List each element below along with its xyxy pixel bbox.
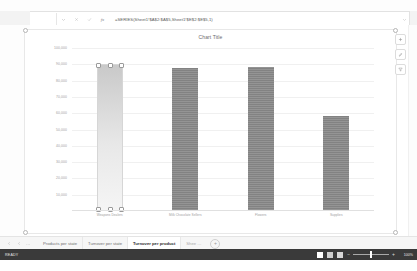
y-tick-label: 40,000 [56, 144, 67, 148]
zoom-knob[interactable] [370, 251, 372, 258]
fx-icon[interactable]: fx [96, 13, 109, 26]
zoom-slider[interactable]: − + [347, 252, 395, 257]
y-tick-label: 80,000 [56, 79, 67, 83]
bar-flowers[interactable] [248, 67, 274, 211]
zoom-in-button[interactable]: + [392, 252, 395, 257]
x-tick-label: Milk Chocolate Sellers [148, 213, 224, 217]
name-box-dropdown-icon[interactable] [57, 13, 70, 26]
status-right-group: − + 100% [317, 252, 417, 258]
chart-frame-handle[interactable] [23, 28, 28, 33]
zoom-out-button[interactable]: − [347, 252, 350, 257]
excel-window: fx =SERIES(Sheet1!$A$2:$A$5,Sheet1!$E$2:… [0, 0, 417, 271]
add-sheet-button[interactable]: + [210, 239, 220, 249]
page-layout-view-button[interactable] [327, 252, 333, 258]
bar-slot [72, 48, 148, 211]
worksheet-canvas[interactable]: Chart Title [0, 25, 417, 236]
zoom-percent-label[interactable]: 100% [399, 253, 413, 257]
y-tick-label: 20,000 [56, 176, 67, 180]
name-box[interactable] [30, 13, 57, 25]
page-break-preview-button[interactable] [337, 252, 343, 258]
bar-milk-chocolate-sellers[interactable] [172, 68, 198, 211]
sheet-nav-buttons [0, 240, 32, 248]
normal-view-button[interactable] [317, 252, 323, 258]
y-tick-label: 50,000 [56, 128, 67, 132]
bar-slot [148, 48, 224, 211]
y-tick-label: 60,000 [56, 111, 67, 115]
selection-handle[interactable] [108, 63, 113, 68]
chart-filters-button[interactable] [395, 64, 406, 75]
plot-area[interactable] [72, 48, 374, 211]
chart-object[interactable]: Chart Title [24, 29, 397, 234]
expand-formula-bar-icon[interactable] [399, 13, 409, 26]
x-tick-label: Weapons Dealers [72, 213, 148, 217]
y-tick-label: 30,000 [56, 160, 67, 164]
selection-handle[interactable] [96, 63, 101, 68]
sheet-list-button[interactable] [25, 240, 32, 248]
chart-styles-button[interactable] [395, 49, 406, 60]
zoom-track[interactable] [353, 254, 389, 255]
formula-input[interactable]: =SERIES(Sheet1!$A$2:$A$5,Sheet1!$E$2:$E$… [109, 17, 399, 22]
chart-tools [395, 34, 406, 75]
chart-elements-button[interactable] [395, 34, 406, 45]
x-tick-label: Flowers [223, 213, 299, 217]
bar-weapons-dealers[interactable] [97, 64, 123, 211]
y-tick-label: 70,000 [56, 95, 67, 99]
chart-frame-handle[interactable] [393, 28, 398, 33]
bar-slot [299, 48, 375, 211]
window-bottom-edge [0, 260, 417, 271]
selection-handle[interactable] [119, 63, 124, 68]
value-axis[interactable]: 100,000 90,000 80,000 70,000 60,000 50,0… [25, 48, 70, 211]
category-axis[interactable]: Weapons Dealers Milk Chocolate Sellers F… [72, 213, 374, 227]
y-tick-label: 90,000 [56, 62, 67, 66]
enter-icon[interactable] [83, 13, 96, 26]
y-tick-label: 10,000 [56, 193, 67, 197]
bar-slot [223, 48, 299, 211]
status-bar: READY − + 100% [0, 249, 417, 260]
bar-series[interactable] [72, 48, 374, 211]
y-tick-label: 100,000 [54, 46, 67, 50]
vertical-scrollbar[interactable] [408, 25, 417, 236]
ribbon-area [0, 0, 417, 11]
cancel-icon[interactable] [70, 13, 83, 26]
status-mode-label: READY [0, 253, 18, 257]
x-tick-label: Supplies [299, 213, 375, 217]
chart-frame-handle[interactable] [393, 230, 398, 235]
chart-frame-handle[interactable] [23, 230, 28, 235]
first-sheet-button[interactable] [5, 240, 12, 248]
category-axis-line [72, 210, 374, 211]
chart-title[interactable]: Chart Title [25, 34, 396, 40]
bar-supplies[interactable] [323, 116, 349, 211]
prev-sheet-button[interactable] [15, 240, 22, 248]
sheet-tab-bar: Products per state Turnover per state Tu… [0, 236, 417, 250]
